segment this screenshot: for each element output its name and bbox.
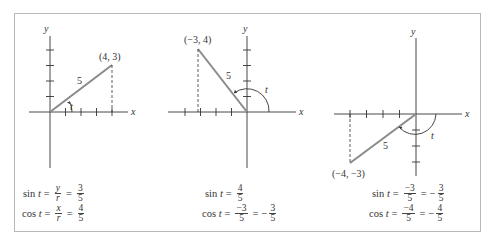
fraction: xr: [55, 204, 61, 223]
fraction: 35: [269, 204, 276, 223]
fraction: 35: [438, 184, 445, 203]
denominator: r: [56, 214, 62, 223]
denominator: r: [55, 194, 61, 203]
fraction: −35: [235, 204, 247, 223]
fraction: 45: [436, 204, 443, 223]
equals: =: [45, 208, 51, 219]
fraction: 35: [77, 184, 84, 203]
point-label: (−4, −3): [332, 168, 365, 180]
numerator: −3: [404, 184, 416, 194]
var: t: [38, 188, 41, 199]
var: t: [387, 188, 390, 199]
panel-1-sin-equation: sin t = yr = 35: [23, 183, 86, 203]
func-name: sin: [205, 188, 217, 199]
point-label: (−3, 4): [184, 34, 211, 46]
denominator: 5: [238, 214, 245, 223]
numerator: 3: [438, 184, 445, 194]
panel-2-sin-equation: sin t = 45: [205, 183, 245, 203]
denominator: 5: [269, 214, 276, 223]
func-name: cos: [369, 208, 383, 219]
panel-3-cos-equation: cos t = −45 = − 45: [369, 203, 445, 223]
numerator: −3: [235, 204, 247, 214]
numerator: x: [55, 204, 61, 214]
var: t: [386, 208, 389, 219]
denominator: 5: [436, 214, 443, 223]
numerator: −4: [402, 204, 414, 214]
var: t: [39, 208, 42, 219]
denominator: 5: [77, 194, 84, 203]
radius-label: 5: [383, 140, 388, 151]
equals: =: [420, 208, 426, 219]
radius-segment: [50, 65, 112, 112]
radius-label: 5: [226, 70, 231, 81]
denominator: 5: [405, 214, 412, 223]
denominator: 5: [237, 194, 244, 203]
equals: =: [225, 208, 231, 219]
numerator: 3: [77, 184, 84, 194]
equals: =: [421, 188, 427, 199]
angle-arc: [234, 89, 269, 112]
minus-sign: −: [262, 208, 268, 219]
numerator: 4: [237, 184, 244, 194]
minus-sign: −: [430, 188, 436, 199]
denominator: 5: [78, 214, 85, 223]
equals: =: [393, 188, 399, 199]
denominator: 5: [406, 194, 413, 203]
equals: =: [226, 188, 232, 199]
panel-3-quadrant-III: y x (−4, −3) 5 t: [332, 26, 470, 180]
func-name: cos: [202, 208, 216, 219]
panel-3-sin-equation: sin t = −35 = − 35: [372, 183, 446, 203]
fraction: 45: [78, 204, 85, 223]
equals: =: [253, 208, 259, 219]
y-axis-label: y: [43, 23, 49, 34]
equals: =: [67, 208, 73, 219]
func-name: sin: [372, 188, 384, 199]
numerator: 4: [436, 204, 443, 214]
radius-segment: [198, 49, 247, 112]
point-label: (4, 3): [99, 51, 121, 63]
panel-1-cos-equation: cos t = xr = 45: [22, 203, 86, 223]
fraction: −35: [404, 184, 416, 203]
minus-sign: −: [429, 208, 435, 219]
radius-label: 5: [77, 75, 82, 86]
numerator: y: [55, 184, 61, 194]
x-axis-label: x: [298, 106, 304, 117]
numerator: 4: [78, 204, 85, 214]
panel-1-quadrant-I: y x (4, 3) 5 t: [29, 23, 136, 168]
denominator: 5: [438, 194, 445, 203]
panel-2-cos-equation: cos t = −35 = − 35: [202, 203, 278, 223]
equals: =: [44, 188, 50, 199]
equals: =: [392, 208, 398, 219]
radius-segment: [350, 114, 416, 163]
fraction: −45: [402, 204, 414, 223]
fraction: yr: [55, 184, 61, 203]
panel-2-quadrant-II: y x (−3, 4) 5 t: [168, 23, 304, 168]
var: t: [219, 208, 222, 219]
x-axis-label: x: [130, 106, 136, 117]
func-name: cos: [22, 208, 36, 219]
equals: =: [66, 188, 72, 199]
var: t: [220, 188, 223, 199]
fraction: 45: [237, 184, 244, 203]
y-axis-label: y: [410, 26, 416, 37]
angle-label: t: [70, 101, 73, 112]
numerator: 3: [269, 204, 276, 214]
y-axis-label: y: [242, 23, 248, 34]
func-name: sin: [23, 188, 35, 199]
angle-label: t: [265, 84, 268, 95]
angle-label: t: [431, 130, 434, 141]
x-axis-label: x: [464, 108, 470, 119]
